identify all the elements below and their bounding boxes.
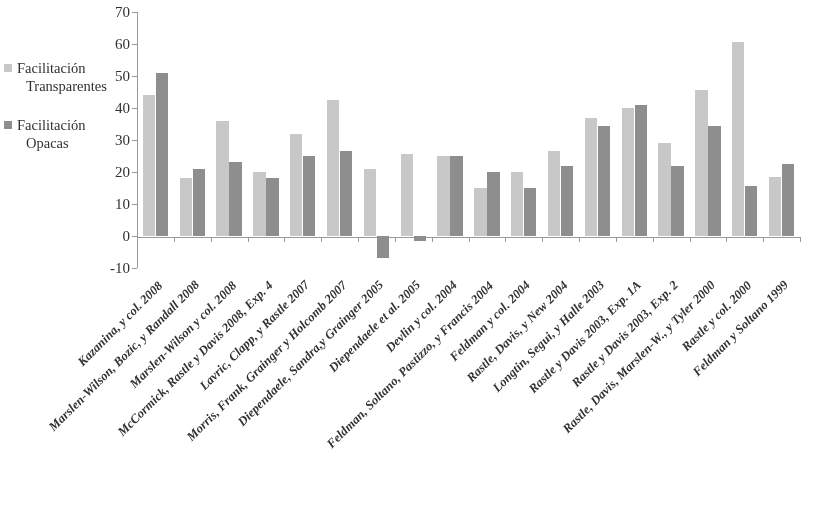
bar-transparentes bbox=[658, 143, 670, 236]
bar-opacas bbox=[414, 236, 426, 241]
bar-transparentes bbox=[511, 172, 523, 236]
y-axis-tick-label: 20 bbox=[96, 165, 130, 180]
bar-opacas bbox=[524, 188, 536, 236]
x-axis-category-label: Feldman y col. 2004 bbox=[447, 278, 534, 365]
y-axis-tick bbox=[132, 204, 137, 205]
y-axis-tick-label: -10 bbox=[96, 261, 130, 276]
y-axis-labels: 706050403020100-10 bbox=[92, 12, 130, 268]
bar-opacas bbox=[303, 156, 315, 236]
bar-transparentes bbox=[585, 118, 597, 236]
bar-transparentes bbox=[437, 156, 449, 236]
legend-swatch-opacas bbox=[4, 121, 12, 129]
bar-transparentes bbox=[401, 154, 413, 236]
x-axis-category-label: Feldman y Soltano 1999 bbox=[690, 278, 792, 380]
x-axis-category-label: Rastle y col. 2000 bbox=[679, 278, 755, 354]
x-axis-tick bbox=[653, 237, 654, 242]
bar-opacas bbox=[377, 236, 389, 258]
y-axis-line bbox=[137, 12, 138, 268]
bar-opacas bbox=[193, 169, 205, 236]
bar-transparentes bbox=[180, 178, 192, 236]
bar-transparentes bbox=[364, 169, 376, 236]
x-axis-category-label: Marslen-Wilson y col. 2008 bbox=[127, 278, 240, 391]
bar-opacas bbox=[671, 166, 683, 236]
bar-transparentes bbox=[769, 177, 781, 236]
y-axis-tick bbox=[132, 108, 137, 109]
legend-label-transparentes-line1: Facilitación bbox=[17, 60, 85, 76]
bar-opacas bbox=[266, 178, 278, 236]
bar-transparentes bbox=[290, 134, 302, 236]
bar-opacas bbox=[782, 164, 794, 236]
bar-opacas bbox=[598, 126, 610, 236]
bar-opacas bbox=[229, 162, 241, 236]
bar-transparentes bbox=[474, 188, 486, 236]
bar-opacas bbox=[708, 126, 720, 236]
x-axis-category-label: Feldman, Soltano, Pastizzo, y Francis 20… bbox=[324, 278, 497, 451]
y-axis-tick-label: 60 bbox=[96, 37, 130, 52]
x-axis-category-label: Morris, Frank, Grainger y Holcomb 2007 bbox=[184, 278, 350, 444]
x-axis-tick bbox=[542, 237, 543, 242]
y-axis-tick bbox=[132, 140, 137, 141]
x-axis-tick bbox=[800, 237, 801, 242]
bar-transparentes bbox=[695, 90, 707, 236]
bar-opacas bbox=[635, 105, 647, 236]
bar-transparentes bbox=[732, 42, 744, 236]
y-axis-tick bbox=[132, 44, 137, 45]
x-axis-category-label: Rastle, Davis, y New 2004 bbox=[464, 278, 571, 385]
legend-label-opacas-line1: Facilitación bbox=[17, 117, 85, 133]
y-axis-tick-label: 50 bbox=[96, 69, 130, 84]
y-axis-tick bbox=[132, 268, 137, 269]
bar-opacas bbox=[487, 172, 499, 236]
x-axis-tick bbox=[358, 237, 359, 242]
bar-opacas bbox=[561, 166, 573, 236]
bar-opacas bbox=[450, 156, 462, 236]
x-axis-tick bbox=[579, 237, 580, 242]
x-axis-tick bbox=[726, 237, 727, 242]
y-axis-tick bbox=[132, 236, 137, 237]
bar-opacas bbox=[340, 151, 352, 236]
y-axis-tick-label: 40 bbox=[96, 101, 130, 116]
bar-transparentes bbox=[327, 100, 339, 236]
x-axis-category-label: Diependaele, Sandra,y Grainger 2005 bbox=[235, 278, 387, 430]
x-axis-category-label: Rastle, Davis, Marslen-W., y Tyler 2000 bbox=[560, 278, 719, 437]
x-axis-category-label: Diependaele et al. 2005 bbox=[326, 278, 424, 376]
bar-opacas bbox=[156, 73, 168, 236]
bar-transparentes bbox=[143, 95, 155, 236]
x-axis-category-label: McCormick, Rastle y Davis 2008, Exp. 4 bbox=[115, 278, 276, 439]
x-axis-category-label: Kazanina, y col. 2008 bbox=[75, 278, 166, 369]
x-axis-tick bbox=[505, 237, 506, 242]
y-axis-tick-label: 10 bbox=[96, 197, 130, 212]
y-axis-tick bbox=[132, 172, 137, 173]
x-axis-tick bbox=[690, 237, 691, 242]
x-axis-category-label: Marslen-Wilson, Bozic, y Randall 2008 bbox=[46, 278, 203, 435]
x-axis-category-label: Devlin y col. 2004 bbox=[383, 278, 461, 356]
x-axis-tick bbox=[248, 237, 249, 242]
plot-area bbox=[137, 12, 800, 268]
y-axis-tick bbox=[132, 76, 137, 77]
x-axis-category-label: Lavric, Clapp, y Rastle 2007 bbox=[197, 278, 313, 394]
x-axis-tick bbox=[174, 237, 175, 242]
x-axis-tick bbox=[211, 237, 212, 242]
y-axis-tick-label: 30 bbox=[96, 133, 130, 148]
x-axis-tick bbox=[616, 237, 617, 242]
x-axis-category-label: Rastle y Davis 2003, Exp. 1A bbox=[526, 278, 645, 397]
bar-opacas bbox=[745, 186, 757, 236]
bar-transparentes bbox=[548, 151, 560, 236]
bar-transparentes bbox=[253, 172, 265, 236]
x-axis-tick bbox=[395, 237, 396, 242]
x-axis-tick bbox=[763, 237, 764, 242]
x-axis-tick bbox=[469, 237, 470, 242]
bar-transparentes bbox=[622, 108, 634, 236]
y-axis-tick-label: 0 bbox=[96, 229, 130, 244]
x-axis-tick bbox=[284, 237, 285, 242]
bar-chart: Facilitación Transparentes Facilitación … bbox=[0, 0, 818, 506]
x-axis-tick bbox=[321, 237, 322, 242]
bar-transparentes bbox=[216, 121, 228, 236]
x-axis-category-label: Longtin, Segui, y Halle 2003 bbox=[490, 278, 608, 396]
legend-swatch-transparentes bbox=[4, 64, 12, 72]
x-axis-category-label: Rastle y Davis 2003, Exp. 2 bbox=[569, 278, 682, 391]
y-axis-tick-label: 70 bbox=[96, 5, 130, 20]
x-axis-tick bbox=[432, 237, 433, 242]
y-axis-tick bbox=[132, 12, 137, 13]
